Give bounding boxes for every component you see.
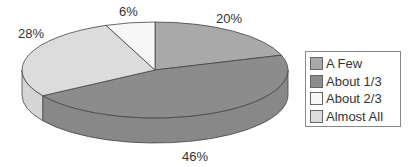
legend-item-about-2-3: About 2/3 [310,90,396,108]
legend-swatch [310,75,323,88]
legend: A Few About 1/3 About 2/3 Almost All [305,51,401,127]
label-a-few: 20% [216,11,242,26]
pie-slices [22,22,288,143]
legend-item-about-1-3: About 1/3 [310,73,396,91]
legend-item-a-few: A Few [310,55,396,73]
legend-label: About 1/3 [326,74,382,89]
legend-label: Almost All [326,109,383,124]
label-about-1-3: 46% [182,149,208,164]
legend-swatch [310,110,323,123]
legend-label: About 2/3 [326,91,382,106]
legend-swatch [310,57,323,70]
label-almost-all: 28% [18,26,44,41]
legend-swatch [310,92,323,105]
legend-item-almost-all: Almost All [310,108,396,126]
label-about-2-3: 6% [119,4,138,19]
legend-label: A Few [326,56,362,71]
